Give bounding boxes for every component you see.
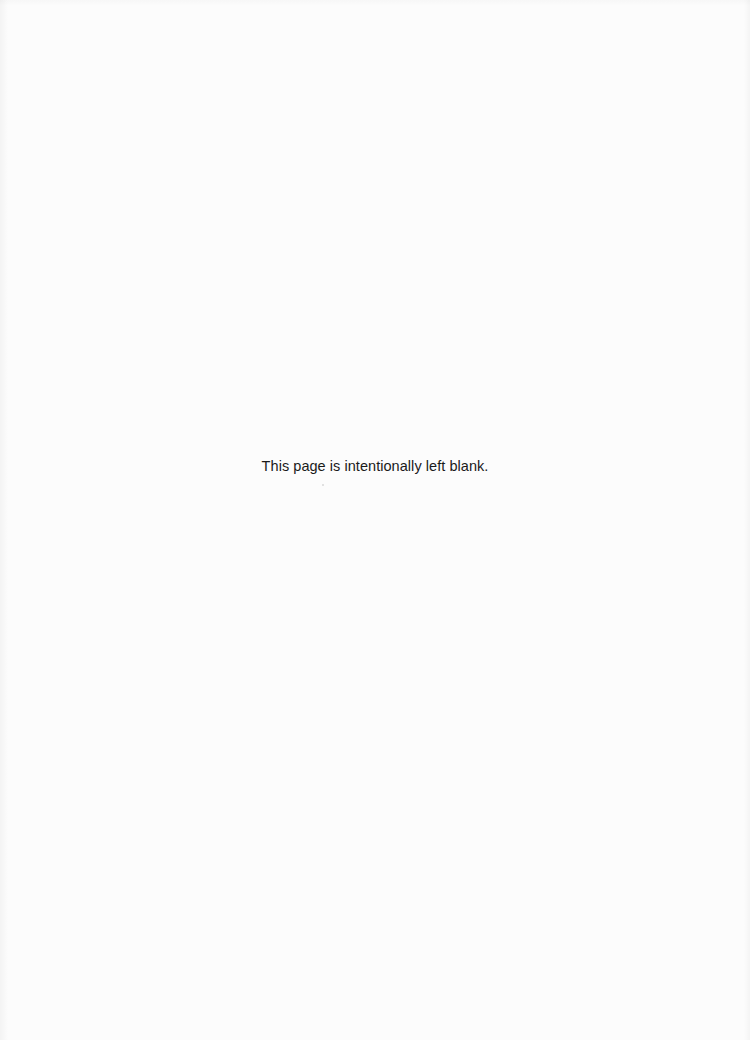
scan-speck (322, 484, 324, 486)
blank-page-notice: This page is intentionally left blank. (0, 458, 750, 474)
blank-page: This page is intentionally left blank. (0, 0, 750, 1040)
